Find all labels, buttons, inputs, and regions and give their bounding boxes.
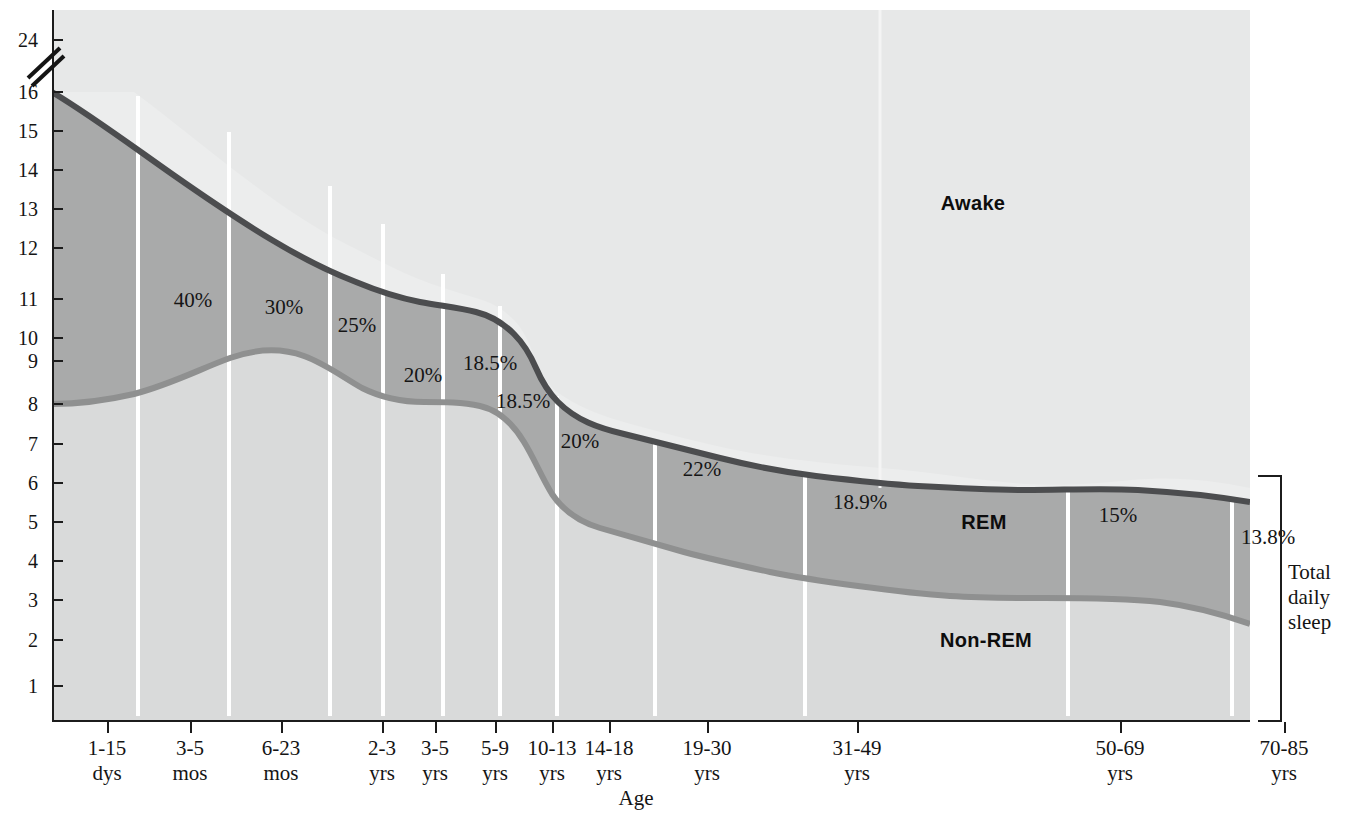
- x-tick-label-line1: 10-13: [528, 736, 577, 761]
- x-tick-mark: [1120, 722, 1122, 733]
- y-tick-mark: [52, 337, 63, 339]
- y-tick-mark: [52, 247, 63, 249]
- y-tick-mark: [52, 39, 63, 41]
- rem-percent-label: 18.9%: [833, 490, 887, 515]
- x-tick-label: 6-23mos: [262, 736, 301, 786]
- bracket-label-line3: sleep: [1288, 610, 1331, 635]
- y-tick-label: 1: [28, 676, 38, 696]
- y-tick-mark: [52, 169, 63, 171]
- y-tick-label: 12: [18, 238, 38, 258]
- x-tick-label-line1: 3-5: [421, 736, 449, 761]
- y-tick-mark: [52, 685, 63, 687]
- x-tick-label-line1: 5-9: [481, 736, 509, 761]
- y-tick-label: 24: [18, 30, 38, 50]
- x-tick-mark: [107, 722, 109, 733]
- x-tick-label: 1-15dys: [88, 736, 127, 786]
- x-tick-label-line1: 31-49: [833, 736, 882, 761]
- x-tick-mark: [552, 722, 554, 733]
- x-tick-label-line2: mos: [172, 761, 207, 786]
- x-tick-mark: [190, 722, 192, 733]
- x-tick-label-line2: dys: [88, 761, 127, 786]
- x-tick-mark: [435, 722, 437, 733]
- y-tick-mark: [52, 403, 63, 405]
- x-tick-mark: [495, 722, 497, 733]
- x-tick-mark: [857, 722, 859, 733]
- x-tick-mark: [707, 722, 709, 733]
- x-axis-title: Age: [619, 786, 654, 811]
- y-axis: 2416151413121110987654321: [0, 0, 52, 819]
- rem-percent-label: 20%: [561, 429, 600, 454]
- x-tick-label: 14-18yrs: [585, 736, 634, 786]
- y-tick-mark: [52, 599, 63, 601]
- x-tick-label-line2: yrs: [683, 761, 732, 786]
- rem-percent-label: 20%: [404, 363, 443, 388]
- y-tick-mark: [52, 560, 63, 562]
- y-tick-mark: [52, 521, 63, 523]
- rem-percent-label: 18.5%: [496, 389, 550, 414]
- x-tick-label-line1: 1-15: [88, 736, 127, 761]
- y-tick-mark: [52, 208, 63, 210]
- y-tick-label: 10: [18, 328, 38, 348]
- x-tick-label: 3-5yrs: [421, 736, 449, 786]
- x-tick-label: 19-30yrs: [683, 736, 732, 786]
- x-tick-label-line1: 50-69: [1096, 736, 1145, 761]
- bracket-label-line1: Total: [1288, 560, 1331, 585]
- y-tick-label: 14: [18, 160, 38, 180]
- bracket-label-line2: daily: [1288, 585, 1331, 610]
- rem-percent-label: 22%: [683, 457, 722, 482]
- y-tick-label: 11: [19, 289, 38, 309]
- x-tick-label-line2: yrs: [368, 761, 396, 786]
- y-tick-label: 7: [28, 434, 38, 454]
- x-tick-label-line2: yrs: [421, 761, 449, 786]
- y-tick-label: 3: [28, 590, 38, 610]
- y-tick-label: 15: [18, 121, 38, 141]
- x-tick-label-line1: 70-85: [1260, 736, 1309, 761]
- rem-percent-label: 40%: [174, 288, 213, 313]
- x-tick-mark: [382, 722, 384, 733]
- x-tick-label-line1: 2-3: [368, 736, 396, 761]
- y-tick-label: 2: [28, 630, 38, 650]
- rem-percent-label: 15%: [1099, 503, 1138, 528]
- region-label-non-rem: Non-REM: [940, 629, 1032, 652]
- x-tick-label: 50-69yrs: [1096, 736, 1145, 786]
- x-tick-label: 2-3yrs: [368, 736, 396, 786]
- region-label-awake: Awake: [941, 192, 1006, 215]
- y-tick-label: 9: [28, 351, 38, 371]
- plot-area: [52, 10, 1250, 722]
- y-tick-mark: [52, 443, 63, 445]
- x-tick-label-line2: yrs: [1096, 761, 1145, 786]
- y-tick-label: 13: [18, 199, 38, 219]
- x-tick-label: 3-5mos: [172, 736, 207, 786]
- y-tick-label: 4: [28, 551, 38, 571]
- y-tick-label: 16: [18, 82, 38, 102]
- x-tick-label: 5-9yrs: [481, 736, 509, 786]
- y-tick-mark: [52, 360, 63, 362]
- x-tick-label-line2: yrs: [528, 761, 577, 786]
- x-tick-mark: [281, 722, 283, 733]
- y-tick-mark: [52, 91, 63, 93]
- region-label-rem: REM: [961, 511, 1006, 534]
- x-tick-label-line1: 19-30: [683, 736, 732, 761]
- x-tick-label-line1: 14-18: [585, 736, 634, 761]
- y-tick-mark: [52, 482, 63, 484]
- y-tick-label: 6: [28, 473, 38, 493]
- x-tick-label-line1: 3-5: [172, 736, 207, 761]
- x-tick-label-line2: yrs: [481, 761, 509, 786]
- total-daily-sleep-label: Total daily sleep: [1288, 560, 1331, 635]
- y-tick-mark: [52, 130, 63, 132]
- x-tick-mark: [1284, 722, 1286, 733]
- rem-percent-label: 30%: [265, 295, 304, 320]
- x-tick-label-line2: yrs: [833, 761, 882, 786]
- x-tick-label-line2: mos: [262, 761, 301, 786]
- sleep-chart-figure: 2416151413121110987654321 40%30%25%20%18…: [0, 0, 1346, 819]
- y-tick-mark: [52, 639, 63, 641]
- x-tick-label-line2: yrs: [1260, 761, 1309, 786]
- x-tick-label-line1: 6-23: [262, 736, 301, 761]
- y-tick-mark: [52, 298, 63, 300]
- chart-canvas: [52, 10, 1250, 722]
- x-tick-mark: [609, 722, 611, 733]
- y-tick-label: 5: [28, 512, 38, 532]
- x-tick-label-line2: yrs: [585, 761, 634, 786]
- y-tick-label: 8: [28, 394, 38, 414]
- x-tick-label: 70-85yrs: [1260, 736, 1309, 786]
